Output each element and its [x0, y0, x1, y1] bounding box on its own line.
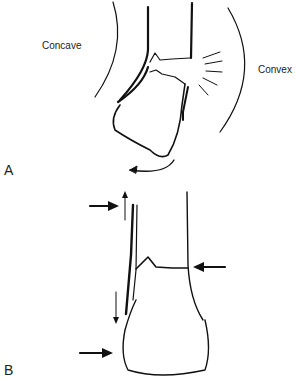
concave-arc	[95, 2, 118, 97]
upper-shaft-right	[191, 3, 192, 58]
lower-fracture-edge	[150, 70, 185, 84]
upper-shaft-left	[120, 7, 148, 100]
arrows	[80, 206, 225, 353]
concave-label: Concave	[42, 40, 81, 51]
fracture-diagram	[0, 0, 307, 381]
cortex-left-outer	[126, 205, 133, 314]
shaft-right	[187, 192, 203, 320]
convex-label: Convex	[258, 64, 292, 75]
panel-b-letter: B	[4, 362, 13, 378]
panel-b-drawing	[80, 191, 225, 375]
stress-lines	[199, 52, 222, 95]
upper-fracture-edge	[150, 53, 190, 62]
panel-a-drawing	[95, 2, 245, 173]
fracture-line	[136, 257, 188, 269]
convex-arc	[220, 8, 245, 132]
rotation-arrowhead	[130, 166, 137, 173]
panel-a-letter: A	[4, 162, 13, 178]
distal-outline	[123, 300, 208, 375]
